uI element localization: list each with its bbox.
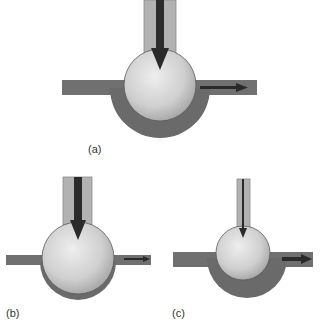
panel-label-c: (c) xyxy=(172,307,185,319)
diagram-canvas xyxy=(0,0,320,325)
valve-a xyxy=(62,0,257,138)
outlet-arrow-shaft xyxy=(200,86,236,89)
outlet-arrow-shaft xyxy=(124,258,144,260)
valve-c xyxy=(173,179,313,298)
inlet-arrow-shaft xyxy=(74,177,82,222)
inlet-arrow-shaft xyxy=(242,179,244,229)
inlet-arrow-shaft xyxy=(156,0,164,50)
panel-label-b: (b) xyxy=(6,307,19,319)
outlet-arrow-shaft xyxy=(282,257,302,261)
valve-b xyxy=(6,177,151,300)
panel-label-a: (a) xyxy=(88,143,101,155)
